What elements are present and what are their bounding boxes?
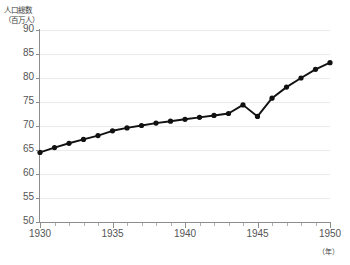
- y-axis-line: [39, 29, 40, 223]
- y-tick-mark: [36, 102, 39, 103]
- x-tick-minor: [84, 223, 85, 226]
- x-tick-minor: [272, 223, 273, 226]
- y-tick-mark: [36, 198, 39, 199]
- y-tick-label: 90: [4, 23, 34, 34]
- x-tick-minor: [229, 223, 230, 226]
- x-tick-minor: [98, 223, 99, 226]
- x-tick-minor: [200, 223, 201, 226]
- y-tick-mark: [36, 126, 39, 127]
- plot-area: [40, 30, 330, 222]
- x-tick-minor: [55, 223, 56, 226]
- x-tick-minor: [243, 223, 244, 226]
- y-axis-title-line1: 人口総数: [4, 6, 32, 15]
- x-tick-label: 1950: [310, 228, 350, 239]
- x-tick-minor: [69, 223, 70, 226]
- population-line-chart: 人口総数（百万人） （年） 50556065707580859019301935…: [0, 0, 350, 265]
- gridline: [40, 150, 330, 151]
- y-tick-label: 60: [4, 167, 34, 178]
- y-tick-label: 75: [4, 95, 34, 106]
- x-tick-minor: [156, 223, 157, 226]
- gridline: [40, 30, 330, 31]
- gridline: [40, 78, 330, 79]
- y-tick-mark: [36, 222, 39, 223]
- x-tick-minor: [142, 223, 143, 226]
- gridline: [40, 126, 330, 127]
- y-tick-label: 85: [4, 47, 34, 58]
- x-axis-title: （年）: [318, 247, 339, 257]
- y-tick-mark: [36, 78, 39, 79]
- gridline: [40, 174, 330, 175]
- x-tick-minor: [301, 223, 302, 226]
- y-tick-mark: [36, 174, 39, 175]
- x-tick-label: 1930: [20, 228, 60, 239]
- x-tick-minor: [214, 223, 215, 226]
- y-tick-mark: [36, 54, 39, 55]
- x-tick-label: 1945: [238, 228, 278, 239]
- y-tick-label: 65: [4, 143, 34, 154]
- y-tick-label: 50: [4, 215, 34, 226]
- gridline: [40, 102, 330, 103]
- y-tick-mark: [36, 30, 39, 31]
- y-tick-label: 80: [4, 71, 34, 82]
- x-tick-label: 1940: [165, 228, 205, 239]
- x-tick-label: 1935: [93, 228, 133, 239]
- gridline: [40, 54, 330, 55]
- x-tick-minor: [127, 223, 128, 226]
- x-tick-minor: [171, 223, 172, 226]
- y-tick-label: 70: [4, 119, 34, 130]
- gridline: [40, 198, 330, 199]
- x-tick-minor: [287, 223, 288, 226]
- x-tick-minor: [316, 223, 317, 226]
- y-tick-label: 55: [4, 191, 34, 202]
- y-tick-mark: [36, 150, 39, 151]
